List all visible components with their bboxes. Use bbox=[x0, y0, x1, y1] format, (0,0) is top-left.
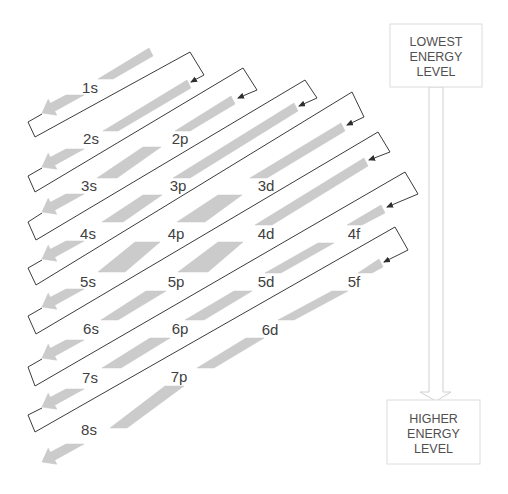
lowest-energy-box: LOWEST ENERGY LEVEL bbox=[390, 24, 482, 87]
arrow-head-icon bbox=[42, 444, 84, 464]
orbital-label-5s: 5s bbox=[80, 273, 96, 290]
orbital-label-6p: 6p bbox=[172, 320, 189, 337]
arrow-segment bbox=[175, 96, 235, 131]
higher-energy-line-2: ENERGY bbox=[407, 427, 460, 441]
higher-energy-line-1: HIGHER bbox=[409, 412, 458, 426]
orbital-label-4s: 4s bbox=[80, 225, 96, 242]
lowest-energy-line-3: LEVEL bbox=[417, 65, 456, 79]
orbital-label-7s: 7s bbox=[82, 369, 98, 386]
arrow-head-icon bbox=[42, 194, 84, 214]
lowest-energy-line-2: ENERGY bbox=[410, 50, 463, 64]
arrow-segment bbox=[197, 338, 264, 368]
orbital-label-4d: 4d bbox=[258, 225, 275, 242]
lowest-energy-line-1: LOWEST bbox=[410, 35, 463, 49]
arrow-segment bbox=[97, 147, 161, 178]
arrow-segment bbox=[98, 48, 153, 79]
orbital-label-5d: 5d bbox=[258, 273, 275, 290]
higher-energy-line-3: LEVEL bbox=[414, 442, 453, 456]
orbital-label-8s: 8s bbox=[81, 421, 97, 438]
orbital-label-4p: 4p bbox=[168, 225, 185, 242]
arrow-segment bbox=[278, 291, 348, 320]
orbital-label-1s: 1s bbox=[82, 79, 98, 96]
energy-scale: LOWEST ENERGY LEVEL HIGHER ENERGY LEVEL bbox=[387, 24, 482, 464]
orbital-label-6d: 6d bbox=[262, 321, 279, 338]
orbital-label-4f: 4f bbox=[348, 225, 361, 242]
down-arrow-icon bbox=[420, 87, 451, 401]
diagonal-arrow-2 bbox=[42, 80, 191, 169]
arrow-segment bbox=[103, 80, 191, 131]
arrow-segment bbox=[102, 195, 162, 222]
arrow-head-icon bbox=[42, 241, 84, 261]
connector-2-to-3 bbox=[28, 68, 257, 192]
higher-energy-box: HIGHER ENERGY LEVEL bbox=[387, 400, 480, 464]
diagram-canvas: 1s 2s 2p 3s 3p 3d 4s 4p 4d 4f 5s 5p 5d 5… bbox=[0, 0, 508, 494]
arrow-segment bbox=[358, 259, 383, 273]
arrow-head-icon bbox=[42, 389, 84, 409]
arrow-head-icon bbox=[42, 95, 84, 115]
arrow-segment bbox=[102, 338, 170, 368]
arrow-segment bbox=[98, 242, 160, 272]
orbital-label-5p: 5p bbox=[168, 273, 185, 290]
orbital-label-5f: 5f bbox=[348, 273, 361, 290]
orbital-label-7p: 7p bbox=[171, 368, 188, 385]
arrow-segment bbox=[347, 205, 385, 225]
arrow-segment bbox=[178, 242, 243, 272]
orbital-label-6s: 6s bbox=[83, 320, 99, 337]
orbital-label-3d: 3d bbox=[258, 177, 275, 194]
orbital-label-2s: 2s bbox=[83, 130, 99, 147]
arrow-head-icon bbox=[42, 289, 84, 309]
arrow-segment bbox=[185, 291, 252, 320]
orbital-label-3s: 3s bbox=[81, 177, 97, 194]
arrow-segment bbox=[110, 386, 184, 428]
orbital-label-2p: 2p bbox=[172, 130, 189, 147]
aufbau-diagram: 1s 2s 2p 3s 3p 3d 4s 4p 4d 4f 5s 5p 5d 5… bbox=[0, 0, 508, 494]
orbital-label-3p: 3p bbox=[170, 177, 187, 194]
arrow-head-icon bbox=[42, 340, 84, 360]
